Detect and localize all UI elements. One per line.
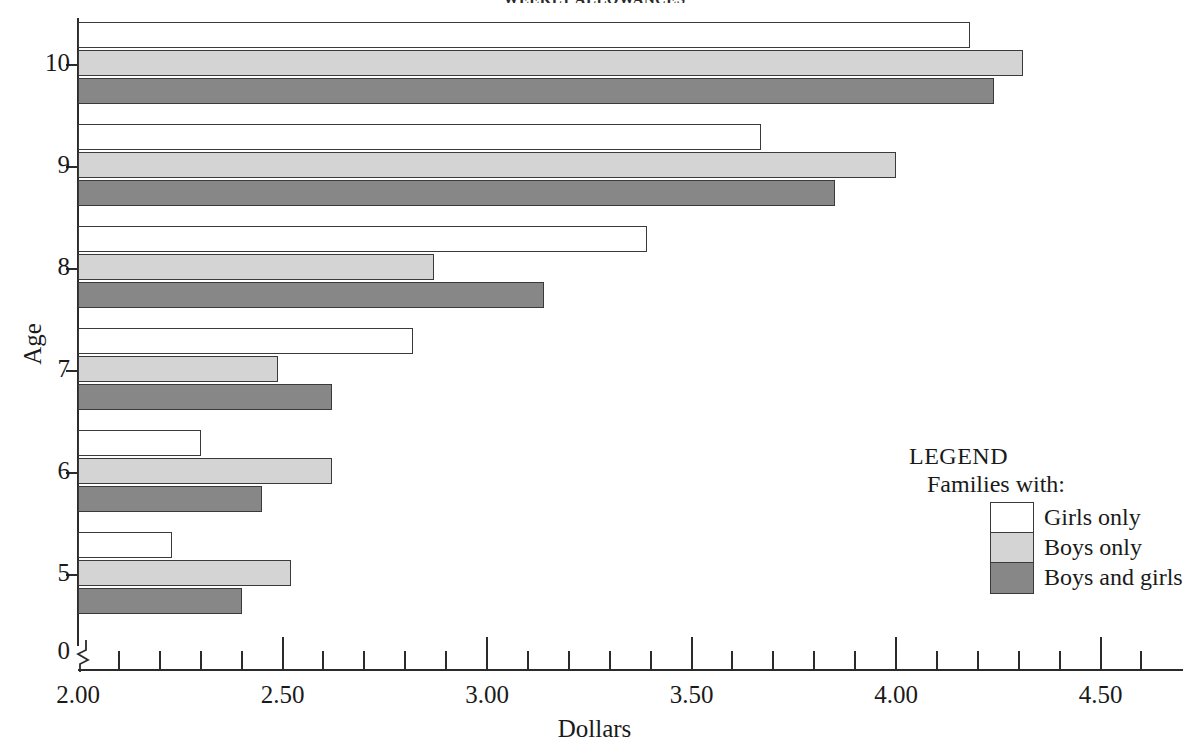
x-tick: [527, 651, 529, 669]
bar-age-5-boys: [78, 560, 291, 586]
y-tick-label-9: 9: [22, 152, 70, 177]
legend-label-boys-only: Boys only: [1044, 532, 1183, 562]
bar-age-9-boys: [78, 152, 896, 178]
x-tick: [363, 651, 365, 669]
legend-swatch-boys-only: [991, 533, 1033, 563]
x-tick-label: 2.00: [23, 681, 133, 709]
bar-age-9-both: [78, 180, 835, 206]
x-axis-title: Dollars: [0, 715, 1189, 743]
bar-age-5-both: [78, 588, 242, 614]
x-tick: [772, 651, 774, 669]
x-tick: [731, 651, 733, 669]
bar-age-10-both: [78, 78, 994, 104]
x-tick-label: 3.50: [637, 681, 747, 709]
legend-body: Girls only Boys only Boys and girls: [990, 502, 1189, 594]
x-tick-label: 2.50: [228, 681, 338, 709]
x-tick: [322, 651, 324, 669]
x-tick: [813, 651, 815, 669]
legend-swatch-girls-only: [991, 503, 1033, 533]
x-tick: [650, 651, 652, 669]
x-tick: [609, 651, 611, 669]
bar-age-8-boys: [78, 254, 434, 280]
bar-age-7-both: [78, 384, 332, 410]
legend-labels: Girls only Boys only Boys and girls: [1044, 502, 1183, 594]
y-axis-title: Age: [19, 289, 47, 399]
x-tick: [936, 651, 938, 669]
bar-age-7-boys: [78, 356, 278, 382]
x-axis-line: [78, 669, 1183, 671]
y-tick-label-7: 7: [22, 356, 70, 381]
legend: LEGEND Families with: Girls only Boys on…: [905, 443, 1189, 594]
x-tick: [241, 651, 243, 669]
y-tick-label-10: 10: [22, 50, 70, 75]
x-tick-label: 3.00: [432, 681, 542, 709]
x-tick: [159, 651, 161, 669]
x-tick: [1059, 651, 1061, 669]
bar-age-8-both: [78, 282, 544, 308]
y-tick-label-5: 5: [22, 560, 70, 585]
x-tick: [854, 651, 856, 669]
bar-age-10-boys: [78, 50, 1023, 76]
x-tick: [200, 651, 202, 669]
y-tick-label-8: 8: [22, 254, 70, 279]
bar-age-7-girls: [78, 328, 413, 354]
x-tick-label: 4.00: [841, 681, 951, 709]
x-tick: [1018, 651, 1020, 669]
bar-age-9-girls: [78, 124, 761, 150]
x-tick: [445, 651, 447, 669]
x-tick: [977, 651, 979, 669]
x-tick: [118, 651, 120, 669]
x-tick: [1100, 637, 1102, 669]
legend-swatches: [990, 502, 1034, 594]
bar-age-5-girls: [78, 532, 172, 558]
bar-age-10-girls: [78, 22, 970, 48]
y-tick-label-0: 0: [22, 638, 70, 663]
legend-label-girls-only: Girls only: [1044, 502, 1183, 532]
legend-label-boys-and-girls: Boys and girls: [1044, 562, 1183, 592]
legend-swatch-boys-and-girls: [991, 563, 1033, 593]
y-tick-label-6: 6: [22, 458, 70, 483]
x-tick: [486, 637, 488, 669]
bar-age-6-both: [78, 486, 262, 512]
legend-subtitle: Families with:: [927, 471, 1189, 498]
x-tick: [404, 651, 406, 669]
bar-age-8-girls: [78, 226, 647, 252]
legend-title: LEGEND: [909, 443, 1189, 470]
x-tick: [282, 637, 284, 669]
x-tick: [895, 637, 897, 669]
x-tick: [568, 651, 570, 669]
chart-title: WEEKLY ALLOWANCES: [0, 0, 1189, 3]
x-tick-label: 4.50: [1046, 681, 1156, 709]
x-tick: [691, 637, 693, 669]
x-tick: [1140, 651, 1142, 669]
bar-age-6-boys: [78, 458, 332, 484]
bar-age-6-girls: [78, 430, 201, 456]
